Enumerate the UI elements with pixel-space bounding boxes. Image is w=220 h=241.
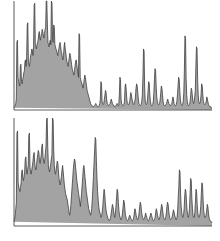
area-fill-bottom — [14, 118, 212, 226]
chart-panel-top — [0, 0, 220, 113]
area-chart-bottom — [0, 116, 220, 241]
area-fill-top — [14, 1, 212, 110]
chart-panel-bottom — [0, 116, 220, 241]
figure-container — [0, 0, 220, 241]
area-chart-top — [0, 0, 220, 113]
